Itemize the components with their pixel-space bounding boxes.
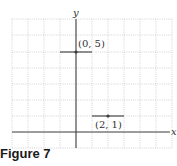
point-b-label: (2, 1): [95, 119, 122, 130]
point-a-label: (0, 5): [78, 38, 105, 49]
graph-figure: x y (0, 5) (2, 1): [0, 0, 177, 166]
x-axis-label: x: [171, 126, 177, 137]
figure-caption: Figure 7: [0, 146, 51, 161]
y-axis-label: y: [72, 7, 79, 18]
point-b-marker: [106, 114, 109, 117]
point-a-marker: [74, 50, 77, 53]
